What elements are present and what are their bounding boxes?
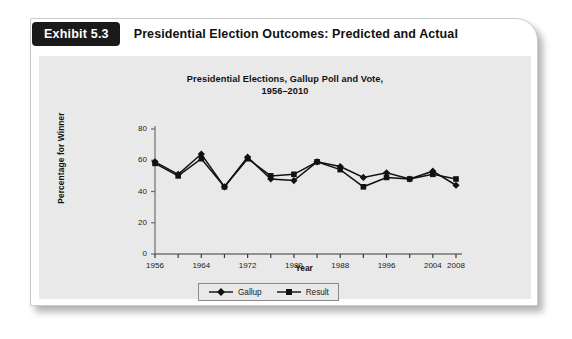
y-tick-label: 60 — [125, 155, 147, 164]
x-tick-label: 1972 — [231, 261, 265, 270]
legend-item-gallup: Gallup — [208, 287, 262, 297]
x-tick-label: 1980 — [277, 261, 311, 270]
exhibit-header: Exhibit 5.3 Presidential Election Outcom… — [31, 19, 537, 49]
exhibit-title: Presidential Election Outcomes: Predicte… — [134, 27, 458, 41]
legend-marker-diamond-icon — [208, 287, 234, 297]
y-tick-label: 0 — [125, 249, 147, 258]
exhibit-card: Exhibit 5.3 Presidential Election Outcom… — [30, 18, 538, 306]
chart-panel: Presidential Elections, Gallup Poll and … — [39, 56, 531, 299]
legend-marker-square-icon — [276, 287, 302, 297]
legend-label-result: Result — [306, 288, 329, 297]
legend-label-gallup: Gallup — [238, 288, 262, 297]
x-tick-label: 2008 — [439, 261, 473, 270]
x-tick-label: 1956 — [138, 261, 172, 270]
y-axis-label: Percentage for Winner — [56, 110, 66, 206]
y-tick-label: 20 — [125, 218, 147, 227]
x-tick-label: 1988 — [323, 261, 357, 270]
exhibit-number-tag: Exhibit 5.3 — [32, 22, 120, 47]
plot-area: Percentage for Winner Year 0204060801956… — [39, 56, 531, 299]
chart-legend: Gallup Result — [198, 283, 339, 301]
y-tick-label: 40 — [125, 187, 147, 196]
x-tick-label: 1964 — [184, 261, 218, 270]
x-tick-label: 1996 — [370, 261, 404, 270]
y-tick-label: 80 — [125, 124, 147, 133]
legend-item-result: Result — [276, 287, 329, 297]
